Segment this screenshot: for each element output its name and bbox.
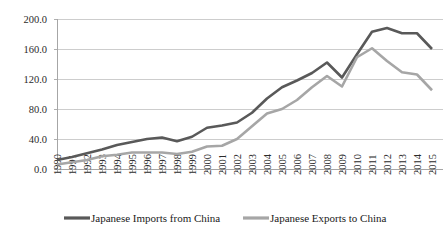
x-axis-tick-label: 2007 [307,154,318,175]
x-axis-tick-label: 1992 [82,154,93,175]
x-axis-tick-label: 2011 [367,154,378,175]
y-axis-tick-label: 80.0 [29,104,47,115]
x-axis-tick-label: 2005 [277,154,288,175]
x-axis-tick-label: 2002 [232,154,243,175]
x-axis-tick-label: 1995 [127,154,138,175]
x-axis-tick-label: 1994 [112,153,123,175]
x-axis-tick-label: 2006 [292,154,303,175]
x-axis-tick-label: 2010 [352,154,363,175]
x-axis-tick-label: 1999 [187,154,198,175]
x-axis-tick-label: 2001 [217,154,228,175]
x-axis-tick-label: 2004 [262,153,273,175]
legend-label-exports: Japanese Exports to China [270,212,387,224]
chart-legend: Japanese Imports from ChinaJapanese Expo… [64,212,387,224]
x-axis-tick-label: 2015 [427,154,438,175]
x-axis-tick-label: 2013 [397,154,408,175]
y-axis-tick-label: 120.0 [23,74,47,85]
x-axis-tick-label: 1998 [172,154,183,175]
y-axis-tick-label: 0.0 [34,164,47,175]
legend-label-imports: Japanese Imports from China [91,212,220,224]
x-axis-tick-label: 2014 [412,153,423,175]
x-axis-tick-label: 2012 [382,154,393,175]
chart-canvas: 0.040.080.0120.0160.0200.0 1990199119921… [0,0,444,239]
x-axis-tick-label: 2000 [202,154,213,175]
x-axis-tick-label: 2003 [247,154,258,175]
x-axis-tick-label: 2008 [322,154,333,175]
x-axis-tick-label: 1997 [157,154,168,175]
series-line-imports [57,28,432,160]
line-chart: 0.040.080.0120.0160.0200.0 1990199119921… [0,0,444,239]
x-axis-tick-label: 1996 [142,154,153,175]
y-axis: 0.040.080.0120.0160.0200.0 [23,14,57,175]
y-axis-tick-label: 160.0 [23,44,47,55]
data-series [57,28,432,165]
y-axis-tick-label: 200.0 [23,14,47,25]
x-axis-tick-label: 2009 [337,154,348,175]
y-axis-tick-label: 40.0 [29,134,47,145]
